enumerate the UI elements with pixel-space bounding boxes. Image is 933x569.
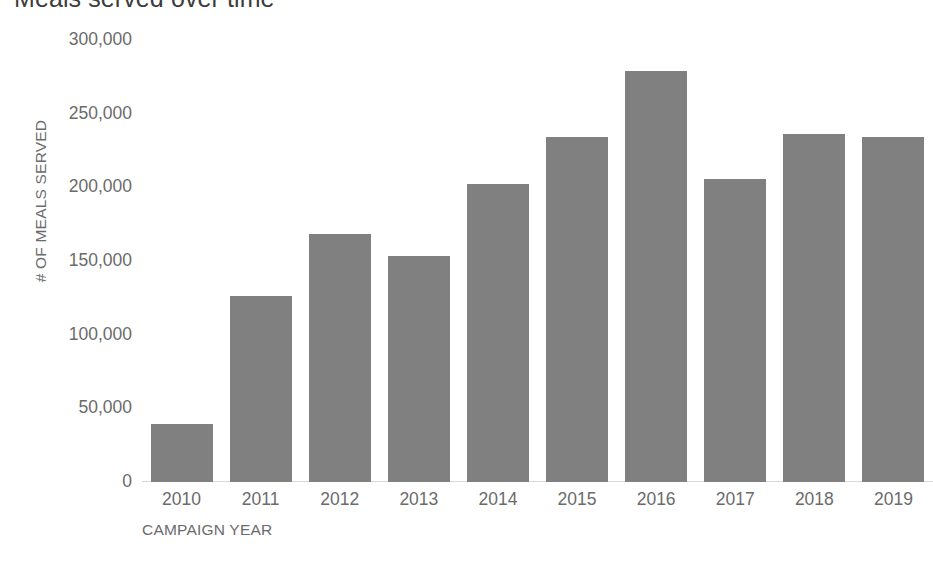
x-axis-tick-label: 2013 bbox=[388, 488, 450, 510]
x-axis-tick-label: 2011 bbox=[230, 488, 292, 510]
x-axis-tick-label: 2012 bbox=[309, 488, 371, 510]
bar-2011 bbox=[230, 296, 292, 482]
y-axis-tick-label: 150,000 bbox=[12, 251, 132, 269]
x-axis-tick-label: 2018 bbox=[783, 488, 845, 510]
bar-2015 bbox=[546, 137, 608, 482]
bar-2019 bbox=[862, 137, 924, 482]
x-axis-tick-label: 2019 bbox=[862, 488, 924, 510]
bar-2013 bbox=[388, 256, 450, 482]
y-axis-tick-labels: 050,000100,000150,000200,000250,000300,0… bbox=[0, 0, 142, 569]
bar-2010 bbox=[151, 424, 213, 482]
x-axis-tick-label: 2014 bbox=[467, 488, 529, 510]
bar-series bbox=[142, 40, 933, 482]
bar-chart: Meals served over time # OF MEALS SERVED… bbox=[0, 0, 933, 569]
y-axis-tick-label: 100,000 bbox=[12, 325, 132, 343]
x-axis-tick-label: 2017 bbox=[704, 488, 766, 510]
bar-2016 bbox=[625, 71, 687, 482]
x-axis-tick-label: 2015 bbox=[546, 488, 608, 510]
y-axis-tick-label: 0 bbox=[12, 472, 132, 490]
y-axis-tick-label: 50,000 bbox=[12, 398, 132, 416]
y-axis-tick-label: 250,000 bbox=[12, 104, 132, 122]
x-axis-tick-label: 2010 bbox=[151, 488, 213, 510]
bar-2014 bbox=[467, 184, 529, 482]
bar-2018 bbox=[783, 134, 845, 482]
x-axis-tick-labels: 2010201120122013201420152016201720182019 bbox=[142, 488, 933, 514]
y-axis-tick-label: 200,000 bbox=[12, 177, 132, 195]
bar-2012 bbox=[309, 234, 371, 482]
x-axis-tick-label: 2016 bbox=[625, 488, 687, 510]
x-axis-title: CAMPAIGN YEAR bbox=[142, 521, 272, 539]
bar-2017 bbox=[704, 179, 766, 483]
y-axis-tick-label: 300,000 bbox=[12, 30, 132, 48]
